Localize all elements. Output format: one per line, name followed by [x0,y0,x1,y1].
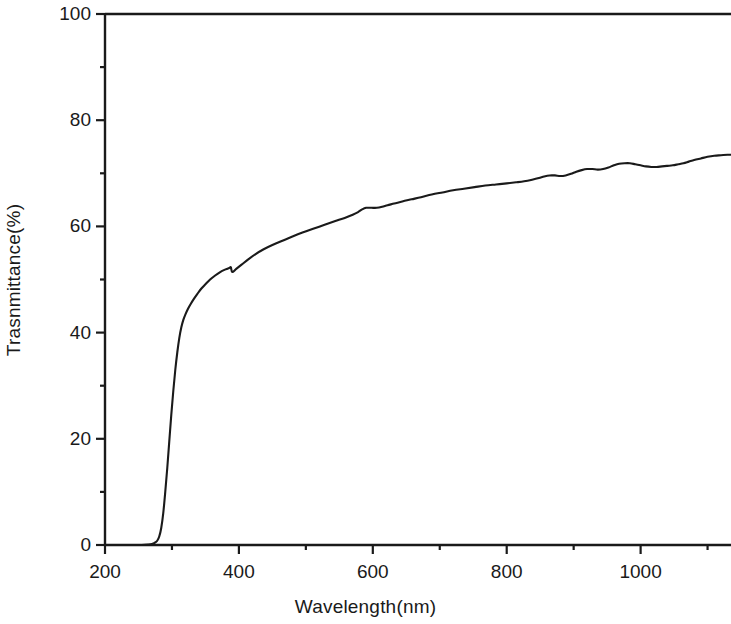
y-axis-title-text: Trasnmittance(%) [3,204,25,356]
x-tick-label: 200 [89,561,121,583]
transmittance-spectrum-figure: Trasnmittance(%) Wavelength(nm) 02040608… [0,0,731,624]
ticks-group [96,14,708,554]
y-tick-label: 60 [34,215,91,237]
x-tick-label: 800 [491,561,523,583]
axes-group [105,14,731,545]
y-axis-title: Trasnmittance(%) [0,0,28,560]
x-tick-label: 1000 [619,561,661,583]
y-tick-label: 20 [34,428,91,450]
x-axis-title: Wavelength(nm) [0,596,731,618]
y-tick-label: 100 [34,3,91,25]
plot-area [0,0,731,624]
x-tick-label: 600 [357,561,389,583]
y-tick-label: 80 [34,109,91,131]
x-axis-title-text: Wavelength(nm) [295,596,436,617]
x-tick-label: 400 [223,561,255,583]
y-tick-label: 0 [34,534,91,556]
y-tick-label: 40 [34,322,91,344]
transmittance-curve [105,155,731,545]
